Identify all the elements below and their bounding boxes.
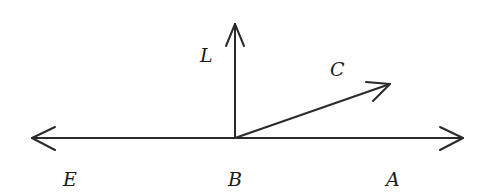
label-A: A (386, 170, 400, 189)
label-L: L (200, 46, 213, 65)
label-C: C (330, 60, 345, 79)
rays-diagram (0, 0, 482, 196)
diagram-canvas: L C E B A (0, 0, 482, 196)
ray-BC (235, 84, 390, 138)
label-B: B (228, 170, 242, 189)
label-E: E (63, 170, 77, 189)
